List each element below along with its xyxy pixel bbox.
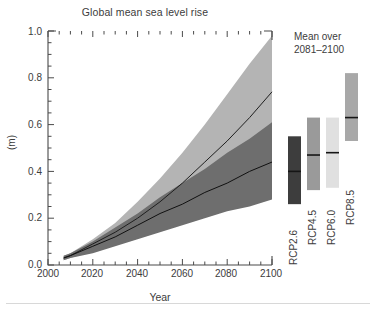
chart-canvas: [0, 0, 376, 312]
range-bar-rcp26: [288, 136, 301, 204]
sea-level-rise-figure: Global mean sea level rise Mean over 208…: [0, 0, 376, 312]
uncertainty-bands: [64, 36, 272, 261]
footer-rule: [6, 303, 370, 304]
range-bar-rcp85: [345, 73, 358, 141]
range-bar-group: [288, 73, 358, 204]
range-bar-rcp45: [307, 118, 320, 191]
